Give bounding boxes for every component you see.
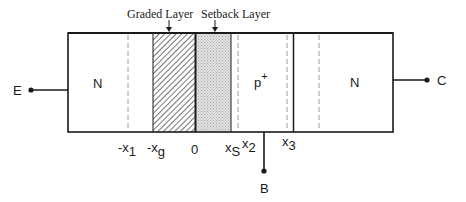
emitter-terminal-label: E [13, 83, 22, 98]
axis-label-zero: 0 [191, 142, 198, 157]
setback-layer-arrow-icon [212, 27, 218, 32]
axis-label-x2: x2 [242, 136, 256, 155]
axis-label-neg-x1: -x1 [118, 140, 136, 159]
axis-label-xs: xS [225, 140, 241, 159]
hbt-diagram: Graded Layer Setback Layer N p+ N E C B … [0, 0, 466, 202]
emitter-region-label: N [93, 76, 102, 91]
base-region-label: p+ [254, 70, 268, 90]
setback-layer-region [196, 33, 231, 132]
graded-layer-region [153, 33, 195, 132]
base-terminal-dot [261, 168, 266, 173]
graded-layer-label: Graded Layer [127, 7, 193, 21]
setback-layer-label: Setback Layer [201, 7, 270, 21]
graded-layer-arrow-icon [166, 27, 172, 32]
emitter-terminal-dot [28, 87, 33, 92]
collector-terminal-label: C [437, 73, 446, 88]
axis-label-x3: x3 [282, 134, 296, 153]
base-terminal-label: B [260, 181, 269, 196]
collector-region-label: N [350, 75, 359, 90]
collector-terminal-dot [424, 77, 429, 82]
axis-label-neg-xg: -xg [147, 140, 165, 159]
